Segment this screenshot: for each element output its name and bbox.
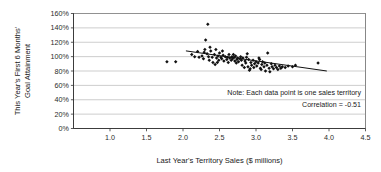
y-tick-label: 120% (51, 38, 70, 47)
x-tick-label: 3.5 (288, 133, 298, 142)
y-tick-label: 160% (51, 9, 70, 18)
y-tick-label: 140% (51, 23, 70, 32)
y-tick-label: 60% (55, 81, 70, 90)
y-axis-ticks: 0%20%40%60%80%100%120%140%160% (51, 9, 74, 133)
x-tick-label: 2.5 (215, 133, 225, 142)
x-tick-label: 4.5 (361, 133, 371, 142)
y-tick-label: 100% (51, 52, 70, 61)
y-tick-label: 0% (59, 124, 70, 133)
annotation-correlation: Correlation = -0.51 (302, 101, 361, 109)
x-axis-title: Last Year's Territory Sales ($ millions) (156, 156, 283, 165)
y-axis-title-line1: This Year's First 6 Months' (13, 26, 22, 115)
y-axis-title-line2: Goal Attainment (23, 43, 32, 98)
chart-canvas: 0%20%40%60%80%100%120%140%160%1.01.52.02… (0, 0, 381, 172)
x-axis-ticks: 1.01.52.02.53.03.54.04.5 (105, 129, 371, 143)
scatter-chart: 0%20%40%60%80%100%120%140%160%1.01.52.02… (0, 0, 381, 172)
x-tick-label: 1.5 (142, 133, 152, 142)
annotation-note: Note: Each data point is one sales terri… (227, 89, 361, 97)
y-tick-label: 20% (55, 110, 70, 119)
y-tick-label: 80% (55, 67, 70, 76)
x-tick-label: 2.0 (178, 133, 188, 142)
x-tick-label: 3.0 (251, 133, 261, 142)
x-tick-label: 4.0 (324, 133, 334, 142)
x-tick-label: 1.0 (105, 133, 115, 142)
y-tick-label: 40% (55, 95, 70, 104)
